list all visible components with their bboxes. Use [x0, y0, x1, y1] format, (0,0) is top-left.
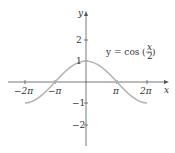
svg-text:y = cos: y = cos [105, 47, 140, 57]
y-tick-neg1: −1 [72, 98, 85, 108]
cosine-graph: −2π −π π 2π 2 1 −1 −2 x y y = cos ( x 2 … [0, 0, 175, 153]
x-tick-2pi: 2π [139, 86, 153, 96]
y-tick-neg2: −2 [72, 120, 85, 130]
y-axis-arrow-icon [84, 11, 88, 16]
y-tick-1: 1 [76, 56, 82, 66]
x-axis-arrow-icon [164, 80, 169, 84]
x-tick-pi: π [112, 86, 120, 96]
svg-text:(: ( [142, 47, 146, 57]
x-tick-negpi: −π [48, 86, 63, 96]
y-axis-label: y [77, 8, 84, 18]
x-axis-label: x [164, 85, 169, 95]
svg-text:): ) [152, 47, 156, 57]
equation-annotation: y = cos ( x 2 ) [105, 42, 156, 61]
x-tick-neg2pi: −2π [14, 86, 34, 96]
y-tick-2: 2 [76, 35, 82, 45]
